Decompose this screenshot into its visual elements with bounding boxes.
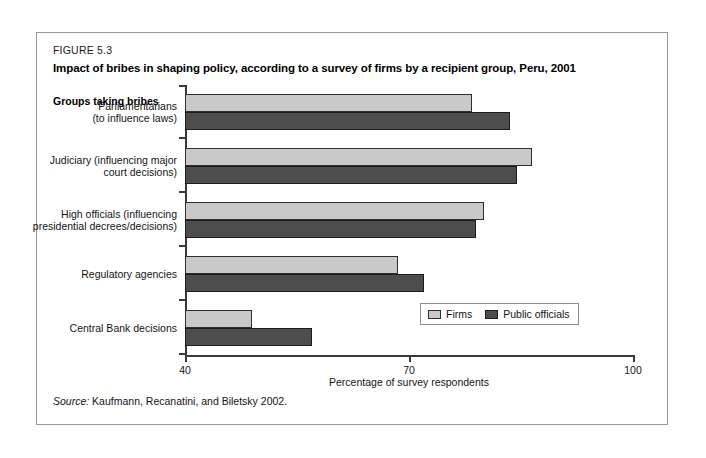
x-axis-tick-label: 100 xyxy=(624,364,642,376)
bar-firms xyxy=(185,148,532,166)
y-axis-tick xyxy=(179,137,185,139)
bar-group xyxy=(185,87,633,141)
bar-public-officials xyxy=(185,274,424,292)
chart-legend: Firms Public officials xyxy=(420,303,579,325)
category-label-line: Regulatory agencies xyxy=(0,268,177,281)
category-label-line: (to influence laws) xyxy=(0,112,177,125)
legend-swatch-firms-icon xyxy=(428,310,441,319)
bar-firms xyxy=(185,256,398,274)
legend-item-firms: Firms xyxy=(428,308,472,320)
x-axis-title: Percentage of survey respondents xyxy=(185,376,633,388)
category-label: Parliamentarians(to influence laws) xyxy=(0,100,177,125)
category-label-line: Judiciary (influencing major xyxy=(0,154,177,167)
x-axis-tick xyxy=(409,355,411,362)
bar-public-officials xyxy=(185,328,312,346)
page-title: Impact of bribes in shaping policy, acco… xyxy=(53,62,576,74)
legend-label-firms: Firms xyxy=(446,308,472,320)
y-axis-tick xyxy=(179,353,185,355)
category-label: Regulatory agencies xyxy=(0,268,177,281)
category-label: High officials (influencingpresidential … xyxy=(0,208,177,233)
x-axis-tick xyxy=(185,355,187,362)
source-label: Source: xyxy=(53,395,89,407)
category-label-line: court decisions) xyxy=(0,166,177,179)
legend-swatch-public-officials-icon xyxy=(485,310,498,319)
category-label-line: Central Bank decisions xyxy=(0,322,177,335)
bar-public-officials xyxy=(185,220,476,238)
bar-group xyxy=(185,195,633,249)
category-label: Judiciary (influencing majorcourt decisi… xyxy=(0,154,177,179)
bar-firms xyxy=(185,310,252,328)
category-label-line: High officials (influencing xyxy=(0,208,177,221)
bar-public-officials xyxy=(185,112,510,130)
x-axis-tick-label: 70 xyxy=(403,364,415,376)
category-label: Central Bank decisions xyxy=(0,322,177,335)
bar-group xyxy=(185,249,633,303)
bar-firms xyxy=(185,94,472,112)
legend-item-public-officials: Public officials xyxy=(485,308,569,320)
x-axis-tick-label: 40 xyxy=(179,364,191,376)
category-label-line: presidential decrees/decisions) xyxy=(0,220,177,233)
source-text: Kaufmann, Recanatini, and Biletsky 2002. xyxy=(92,395,287,407)
y-axis-tick xyxy=(179,245,185,247)
legend-label-public-officials: Public officials xyxy=(503,308,569,320)
y-axis-tick xyxy=(179,299,185,301)
x-axis-tick xyxy=(633,355,635,362)
bar-public-officials xyxy=(185,166,517,184)
category-label-line: Parliamentarians xyxy=(0,100,177,113)
figure-number: FIGURE 5.3 xyxy=(53,44,112,56)
y-axis-tick xyxy=(179,85,185,87)
bar-firms xyxy=(185,202,484,220)
bar-group xyxy=(185,141,633,195)
y-axis-tick xyxy=(179,191,185,193)
figure-frame: FIGURE 5.3 Impact of bribes in shaping p… xyxy=(36,32,668,425)
source-note: Source: Kaufmann, Recanatini, and Bilets… xyxy=(53,395,287,407)
